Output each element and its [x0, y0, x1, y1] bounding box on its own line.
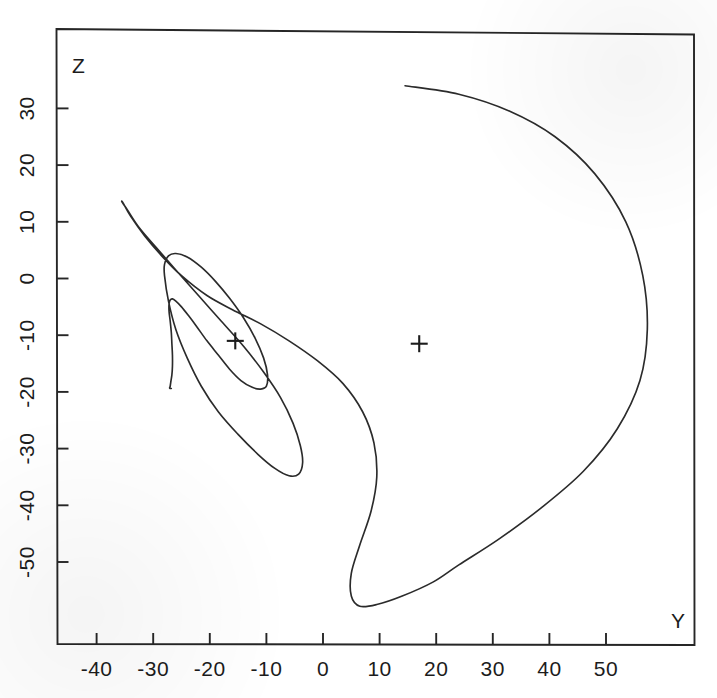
x-axis-tick-labels: -40-30-20-1001020304050 — [81, 657, 619, 680]
x-tick-label: -10 — [250, 657, 282, 680]
y-tick-label: -40 — [15, 489, 38, 521]
y-tick-label: 0 — [15, 272, 38, 284]
frame-border — [57, 29, 695, 645]
y-tick-label: -10 — [15, 319, 38, 351]
x-tick-label: 30 — [481, 657, 505, 680]
trajectory-group — [122, 86, 648, 607]
phase-plot-figure: -40-30-20-1001020304050 -50-40-30-20-100… — [0, 0, 717, 698]
y-tick-label: 10 — [15, 210, 38, 234]
plot-frame — [57, 29, 695, 645]
y-axis-tick-labels: -50-40-30-20-100102030 — [15, 96, 38, 578]
x-tick-label: 40 — [537, 657, 561, 680]
x-tick-label: -20 — [194, 657, 226, 680]
y-tick-label: 20 — [15, 153, 38, 177]
y-axis-ticks — [57, 108, 69, 562]
x-tick-label: 50 — [594, 657, 618, 680]
trajectory-curve — [122, 86, 648, 607]
y-tick-label: -50 — [15, 546, 38, 578]
x-tick-label: -30 — [137, 657, 169, 680]
x-tick-label: 10 — [367, 657, 391, 680]
x-tick-label: -40 — [81, 657, 113, 680]
y-axis-name-label: Z — [72, 54, 85, 77]
y-tick-label: 30 — [15, 96, 38, 120]
x-axis-name-label: Y — [671, 609, 685, 632]
fixed-point-left-marker — [227, 332, 244, 349]
x-axis-ticks — [97, 633, 606, 644]
y-tick-label: -30 — [15, 433, 38, 465]
fixed-point-right-marker — [411, 335, 428, 352]
x-tick-label: 0 — [317, 657, 329, 680]
plot-canvas: -40-30-20-1001020304050 -50-40-30-20-100… — [0, 0, 717, 698]
x-tick-label: 20 — [424, 657, 448, 680]
y-tick-label: -20 — [15, 376, 38, 408]
